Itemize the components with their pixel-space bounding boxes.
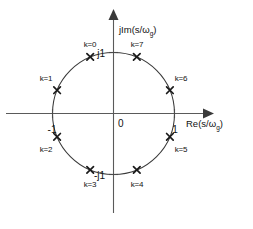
real-axis-arrow-icon: [203, 109, 214, 119]
pole-marker-k2: [54, 134, 61, 141]
origin-label: 0: [118, 118, 124, 129]
pole-marker-k1: [54, 87, 61, 94]
pole-label-k4: k=4: [131, 180, 144, 189]
pole-zero-plot: Re(s/ωg) jIm(s/ωg) 0 -1 1 j1 -j1: [0, 0, 253, 229]
pole-marker-k3: [87, 167, 94, 174]
pole-label-k0: k=0: [84, 40, 97, 49]
real-axis: [6, 109, 214, 119]
pole-label-k1: k=1: [40, 74, 53, 83]
y-axis-label: jIm(s/ωg): [118, 24, 156, 38]
pole-label-k2: k=2: [40, 145, 53, 154]
pole-marker-k6: [167, 87, 174, 94]
pole-marker-k5: [167, 134, 174, 141]
x-axis-label: Re(s/ωg): [186, 118, 223, 132]
pole-marker-k0: [87, 54, 94, 61]
y-tick-label-j1: j1: [96, 48, 105, 59]
imaginary-axis: [109, 9, 119, 213]
pole-label-k3: k=3: [84, 180, 97, 189]
pole-marker-k7: [134, 54, 141, 61]
pole-label-k5: k=5: [175, 145, 188, 154]
pole-marker-k4: [134, 167, 141, 174]
complex-plane-diagram: Re(s/ωg) jIm(s/ωg) 0 -1 1 j1 -j1: [0, 0, 253, 229]
pole-label-k6: k=6: [175, 74, 188, 83]
pole-label-k7: k=7: [131, 40, 144, 49]
x-tick-label-minus1: -1: [48, 124, 57, 135]
imaginary-axis-arrow-icon: [109, 9, 119, 20]
